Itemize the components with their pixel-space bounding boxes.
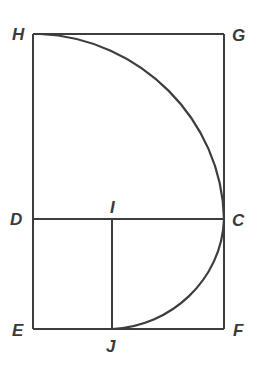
label-i: I: [110, 198, 116, 217]
label-c: C: [232, 211, 245, 230]
label-d: D: [10, 210, 22, 229]
label-j: J: [106, 337, 116, 356]
label-h: H: [12, 25, 25, 44]
arc-h-to-c: [40, 34, 224, 219]
arc-c-to-j: [112, 219, 224, 329]
label-g: G: [232, 26, 245, 45]
label-f: F: [233, 321, 244, 340]
label-e: E: [12, 321, 24, 340]
golden-rectangle-diagram: H G D I C E J F: [0, 0, 260, 373]
